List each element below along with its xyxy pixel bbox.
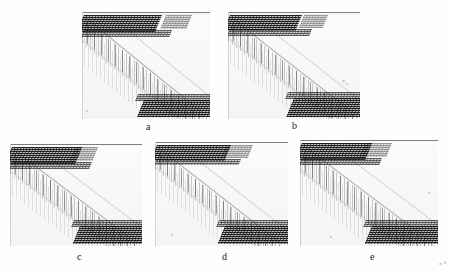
panel-a-scan-speck-2 bbox=[178, 30, 179, 31]
panel-caption-c: c bbox=[77, 252, 81, 262]
panel-e-scan-speck-1 bbox=[428, 192, 430, 194]
page-scan-speck-1 bbox=[439, 263, 442, 265]
panel-e-bottom-right-mid-block bbox=[363, 220, 438, 227]
panel-d-bottom-right-dark-block bbox=[218, 226, 288, 244]
panel-d-top-left-mid-block bbox=[155, 159, 241, 165]
panel-c-top-left-mid-block bbox=[10, 162, 92, 169]
panel-b-scan-speck-2 bbox=[346, 83, 348, 85]
panel-a-top-rule bbox=[82, 12, 210, 13]
panel-e-top-rule bbox=[300, 140, 438, 141]
panel-a-bottom-right-dark-block bbox=[137, 100, 210, 117]
figure-root: a b c bbox=[0, 0, 450, 272]
matrix-panel-a bbox=[82, 12, 210, 119]
panel-b-top-left-mid-block bbox=[228, 29, 312, 36]
panel-b-scan-speck-1 bbox=[342, 80, 345, 82]
panel-d-top-rule bbox=[155, 142, 288, 143]
panel-a-top-left-mid-block bbox=[82, 30, 172, 37]
panel-e-bottom-right-dark-block bbox=[365, 226, 438, 244]
panel-b-bottom-right-mid-block bbox=[285, 92, 360, 99]
panel-d-scan-speck-1 bbox=[171, 234, 173, 236]
panel-c-scan-speck-1 bbox=[138, 220, 140, 222]
panel-a-bottom-right-mid-block bbox=[135, 94, 210, 101]
panel-b-bottom-right-dark-block bbox=[286, 98, 360, 117]
matrix-panel-c bbox=[10, 144, 142, 246]
panel-c-bottom-right-mid-block bbox=[71, 220, 142, 227]
matrix-panel-d bbox=[155, 142, 288, 246]
panel-caption-d: d bbox=[222, 252, 227, 262]
panel-a-scan-speck-1 bbox=[86, 110, 88, 112]
panel-d-top-left-light-block bbox=[222, 145, 253, 158]
panel-caption-b: b bbox=[292, 121, 297, 131]
panel-e-top-left-mid-block bbox=[300, 158, 382, 165]
page-scan-speck-2 bbox=[444, 261, 446, 264]
panel-c-top-rule bbox=[10, 144, 142, 145]
panel-e-scan-speck-2 bbox=[330, 236, 332, 238]
panel-caption-a: a bbox=[146, 122, 150, 132]
matrix-panel-e bbox=[300, 140, 438, 246]
panel-caption-e: e bbox=[370, 252, 374, 262]
matrix-panel-b bbox=[228, 12, 360, 119]
panel-c-bottom-right-dark-block bbox=[73, 226, 142, 244]
panel-b-top-rule bbox=[228, 12, 360, 13]
panel-d-bottom-right-mid-block bbox=[216, 220, 288, 227]
